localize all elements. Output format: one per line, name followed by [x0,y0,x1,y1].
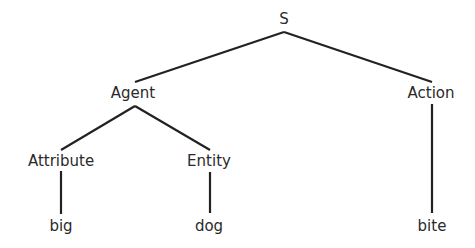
node-dog: dog [195,219,223,234]
node-s: S [279,12,289,27]
node-agent: Agent [111,86,155,101]
node-action: Action [408,86,455,101]
edge-agent-entity [135,106,210,150]
edge-s-agent [135,32,284,82]
edge-agent-attribute [61,106,135,150]
node-bite: bite [418,219,447,234]
node-attribute: Attribute [28,154,94,169]
node-big: big [49,219,72,234]
edge-s-action [284,32,432,82]
node-entity: Entity [187,154,231,169]
tree-edges [0,0,475,248]
